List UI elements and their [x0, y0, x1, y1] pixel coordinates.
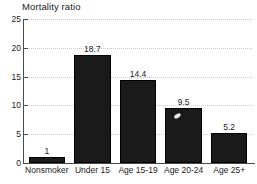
x-axis-tick-label: Age 20-24	[164, 165, 203, 175]
y-axis-tick-label: 15	[12, 72, 21, 81]
y-axis-tick-label: 5	[16, 130, 21, 139]
x-axis-tick-label: Age 15-19	[118, 165, 157, 175]
mortality-ratio-bar-chart: Mortality ratio 0510152025 118.714.49.55…	[0, 0, 257, 184]
y-axis-tick-label: 25	[12, 15, 21, 24]
y-axis-tick-label: 10	[12, 101, 21, 110]
x-axis-tick-label: Under 15	[75, 165, 110, 175]
y-axis-tick-label: 0	[16, 159, 21, 168]
x-axis-tick-label: Nonsmoker	[25, 165, 68, 175]
x-axis-labels: NonsmokerUnder 15Age 15-19Age 20-24Age 2…	[24, 0, 252, 184]
x-axis-tick-label: Age 25+	[213, 165, 245, 175]
y-axis-tick-label: 20	[12, 43, 21, 52]
